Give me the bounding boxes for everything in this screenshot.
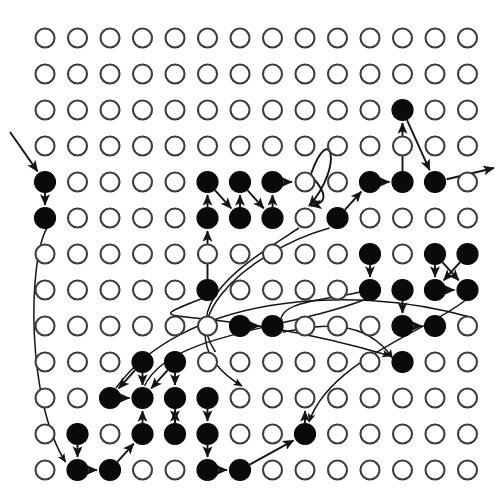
graph-node-open[interactable] xyxy=(68,389,87,408)
graph-node-open[interactable] xyxy=(101,209,120,228)
graph-node-filled[interactable] xyxy=(230,316,251,337)
graph-node-open[interactable] xyxy=(101,353,120,372)
graph-node-open[interactable] xyxy=(328,245,347,264)
graph-node-filled[interactable] xyxy=(197,460,218,481)
graph-node-open[interactable] xyxy=(231,425,250,444)
graph-node-filled[interactable] xyxy=(100,460,121,481)
graph-node-filled[interactable] xyxy=(132,424,153,445)
graph-node-open[interactable] xyxy=(133,137,152,156)
graph-node-open[interactable] xyxy=(296,461,315,480)
graph-node-filled[interactable] xyxy=(360,172,381,193)
graph-node-open[interactable] xyxy=(328,425,347,444)
graph-node-open[interactable] xyxy=(393,245,412,264)
graph-node-filled[interactable] xyxy=(327,208,348,229)
graph-node-open[interactable] xyxy=(101,317,120,336)
graph-node-filled[interactable] xyxy=(165,424,186,445)
graph-node-open[interactable] xyxy=(36,281,55,300)
graph-node-open[interactable] xyxy=(426,353,445,372)
graph-node-open[interactable] xyxy=(361,461,380,480)
graph-node-filled[interactable] xyxy=(295,424,316,445)
graph-node-open[interactable] xyxy=(68,65,87,84)
graph-node-open[interactable] xyxy=(36,389,55,408)
graph-node-filled[interactable] xyxy=(197,280,218,301)
graph-node-open[interactable] xyxy=(361,29,380,48)
graph-node-open[interactable] xyxy=(36,29,55,48)
graph-node-open[interactable] xyxy=(166,65,185,84)
graph-node-open[interactable] xyxy=(36,137,55,156)
graph-node-open[interactable] xyxy=(198,101,217,120)
graph-node-open[interactable] xyxy=(296,65,315,84)
graph-node-open[interactable] xyxy=(166,173,185,192)
graph-node-open[interactable] xyxy=(458,29,477,48)
graph-node-filled[interactable] xyxy=(262,208,283,229)
graph-node-open[interactable] xyxy=(166,209,185,228)
graph-node-open[interactable] xyxy=(133,461,152,480)
graph-node-open[interactable] xyxy=(296,137,315,156)
graph-node-open[interactable] xyxy=(328,461,347,480)
graph-node-open[interactable] xyxy=(393,389,412,408)
graph-node-filled[interactable] xyxy=(165,352,186,373)
graph-node-open[interactable] xyxy=(166,245,185,264)
graph-node-filled[interactable] xyxy=(67,424,88,445)
graph-node-open[interactable] xyxy=(458,461,477,480)
graph-node-open[interactable] xyxy=(361,137,380,156)
graph-node-open[interactable] xyxy=(68,137,87,156)
graph-node-filled[interactable] xyxy=(457,280,478,301)
graph-node-open[interactable] xyxy=(263,461,282,480)
graph-node-open[interactable] xyxy=(198,29,217,48)
graph-node-filled[interactable] xyxy=(425,172,446,193)
graph-node-open[interactable] xyxy=(263,137,282,156)
graph-node-open[interactable] xyxy=(328,29,347,48)
graph-node-open[interactable] xyxy=(393,425,412,444)
graph-node-filled[interactable] xyxy=(230,460,251,481)
graph-node-open[interactable] xyxy=(393,29,412,48)
graph-node-open[interactable] xyxy=(198,65,217,84)
graph-node-filled[interactable] xyxy=(392,100,413,121)
graph-node-open[interactable] xyxy=(361,101,380,120)
graph-node-open[interactable] xyxy=(458,137,477,156)
graph-node-open[interactable] xyxy=(426,425,445,444)
graph-node-filled[interactable] xyxy=(457,244,478,265)
graph-node-filled[interactable] xyxy=(262,316,283,337)
graph-node-filled[interactable] xyxy=(67,460,88,481)
graph-node-open[interactable] xyxy=(68,353,87,372)
graph-node-open[interactable] xyxy=(458,65,477,84)
graph-node-open[interactable] xyxy=(36,425,55,444)
graph-node-filled[interactable] xyxy=(360,244,381,265)
graph-node-filled[interactable] xyxy=(197,388,218,409)
graph-node-open[interactable] xyxy=(458,389,477,408)
graph-node-open[interactable] xyxy=(133,245,152,264)
graph-node-open[interactable] xyxy=(101,425,120,444)
graph-node-open[interactable] xyxy=(101,65,120,84)
graph-node-filled[interactable] xyxy=(35,172,56,193)
graph-node-open[interactable] xyxy=(426,461,445,480)
graph-node-open[interactable] xyxy=(458,101,477,120)
graph-node-open[interactable] xyxy=(166,281,185,300)
graph-node-open[interactable] xyxy=(133,317,152,336)
graph-node-open[interactable] xyxy=(328,353,347,372)
graph-node-open[interactable] xyxy=(231,389,250,408)
graph-node-open[interactable] xyxy=(361,353,380,372)
graph-node-open[interactable] xyxy=(101,245,120,264)
graph-node-filled[interactable] xyxy=(392,280,413,301)
graph-node-open[interactable] xyxy=(133,29,152,48)
graph-node-filled[interactable] xyxy=(35,208,56,229)
graph-node-open[interactable] xyxy=(101,137,120,156)
graph-node-filled[interactable] xyxy=(197,424,218,445)
graph-node-open[interactable] xyxy=(68,281,87,300)
graph-node-open[interactable] xyxy=(296,281,315,300)
graph-node-filled[interactable] xyxy=(132,388,153,409)
graph-node-open[interactable] xyxy=(263,101,282,120)
graph-node-open[interactable] xyxy=(231,29,250,48)
graph-node-open[interactable] xyxy=(328,101,347,120)
graph-node-open[interactable] xyxy=(263,389,282,408)
graph-node-open[interactable] xyxy=(166,29,185,48)
graph-node-open[interactable] xyxy=(296,245,315,264)
graph-node-open[interactable] xyxy=(101,29,120,48)
graph-node-open[interactable] xyxy=(328,65,347,84)
graph-node-open[interactable] xyxy=(231,101,250,120)
graph-node-open[interactable] xyxy=(166,317,185,336)
graph-node-open[interactable] xyxy=(36,245,55,264)
graph-node-open[interactable] xyxy=(68,209,87,228)
graph-node-open[interactable] xyxy=(263,281,282,300)
